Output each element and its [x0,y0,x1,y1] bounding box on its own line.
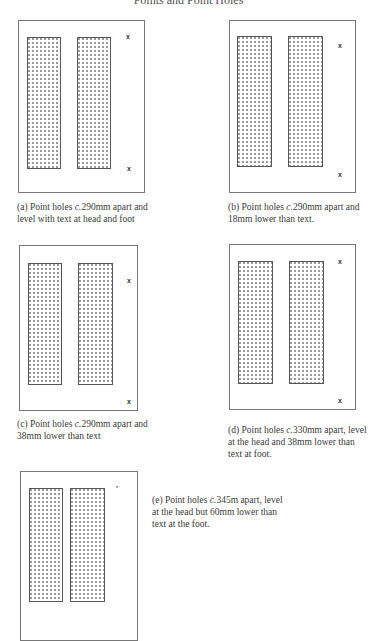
point-hole-mark-head: x [126,33,130,40]
point-hole-mark-head: x [127,277,131,284]
caption-circa: c. [286,202,293,212]
text-column-right [78,263,113,385]
text-column-right [70,488,105,602]
text-column-left [237,36,272,167]
text-column-left [27,37,61,169]
caption-circa: c. [286,425,293,435]
point-hole-mark-head: x [338,42,342,49]
text-column-left [28,263,62,385]
text-column-left [29,488,63,602]
caption-b: (b) Point holes c.290mm apart and 18mm l… [228,201,363,225]
caption-c: (c) Point holes c.290mm apart and 38mm l… [17,418,152,442]
text-column-right [288,36,323,167]
page-title: Points and Point Holes [0,0,377,8]
caption-prefix: (a) Point holes [17,202,75,212]
caption-d: (d) Point holes c.330mm apart, level at … [228,424,368,460]
point-hole-mark-head: ’ [116,485,118,492]
caption-prefix: (b) Point holes [228,202,286,212]
text-column-left [238,261,273,384]
caption-a: (a) Point holes c.290mm apart and level … [17,201,152,225]
caption-prefix: (c) Point holes [17,419,75,429]
point-hole-mark-head: x [338,258,342,265]
text-column-right [289,261,324,384]
point-hole-mark-foot: x [338,171,342,178]
point-hole-mark-foot: x [127,165,131,172]
point-hole-mark-foot: x [338,397,342,404]
caption-prefix: (e) Point holes [152,495,210,505]
caption-prefix: (d) Point holes [228,425,286,435]
caption-e: (e) Point holes c.345m apart, level at t… [152,494,287,530]
point-hole-mark-foot: x [127,398,131,405]
text-column-right [77,37,111,169]
